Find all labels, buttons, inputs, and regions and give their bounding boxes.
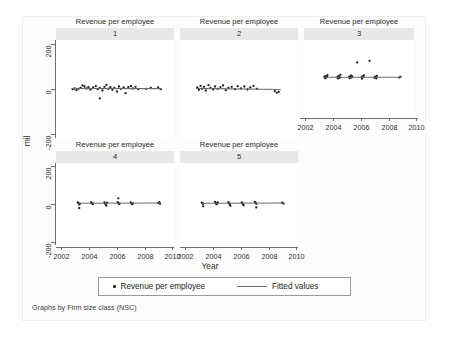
figure-caption: Graphs by Firm size class (NSC) — [32, 303, 137, 312]
legend: Revenue per employee Fitted values — [98, 277, 351, 296]
panel-3-plotbox — [304, 40, 414, 116]
x-tick-label-p5-2006: 2006 — [230, 252, 253, 261]
x-tick-label-p4-2004: 2004 — [78, 252, 101, 261]
panel-1-plotbox — [56, 40, 174, 138]
x-tick-label-p5-2004: 2004 — [202, 252, 225, 261]
x-tick-p4-2006 — [117, 247, 118, 250]
panel-2-series — [180, 40, 298, 138]
panel-5-inner — [180, 163, 298, 245]
panel-4-subtitle: 4 — [56, 152, 174, 161]
panel-3: Revenue per employee 3 — [304, 28, 414, 116]
graph-canvas: mil 200 0 -200 200 0 -200 Revenue per em… — [0, 0, 449, 338]
panel-3-series — [304, 40, 414, 116]
panel-1-subtitle: 1 — [56, 29, 174, 38]
x-tick-label-p4-2002: 2002 — [50, 252, 73, 261]
x-tick-p4-2002 — [61, 247, 62, 250]
x-tick-label-p4-2006: 2006 — [106, 252, 129, 261]
x-tick-label-p3-2008: 2008 — [378, 123, 401, 132]
legend-label-fit: Fitted values — [272, 282, 318, 291]
panel-4-inner — [56, 163, 174, 245]
x-tick-p3-2006 — [361, 118, 362, 121]
y-tick-label-row2-0: 0 — [44, 206, 53, 232]
panel-5-title: Revenue per employee — [180, 140, 298, 149]
x-tick-p4-2010 — [172, 247, 173, 250]
y-tick-label-row1-0: 0 — [44, 91, 53, 117]
legend-entry-fit[interactable]: Fitted values — [237, 278, 318, 295]
x-axis-title: Year — [180, 261, 240, 271]
x-tick-p3-2010 — [416, 118, 417, 121]
y-axis-title: mil — [22, 128, 32, 154]
panel-3-subtitle: 3 — [304, 29, 414, 38]
panel-1: Revenue per employee 1 — [56, 28, 174, 138]
x-tick-p3-2004 — [333, 118, 334, 121]
x-tick-label-p3-2002: 2002 — [294, 123, 317, 132]
x-tick-p5-2006 — [241, 247, 242, 250]
x-tick-p5-2008 — [269, 247, 270, 250]
x-tick-p3-2002 — [305, 118, 306, 121]
x-axis-line-panel4 — [56, 247, 174, 248]
panel-4: Revenue per employee 4 — [56, 151, 174, 245]
panel-2: Revenue per employee 2 — [180, 28, 298, 138]
panel-5-plotbox — [180, 163, 298, 245]
x-tick-p5-2002 — [185, 247, 186, 250]
panel-3-inner — [304, 40, 414, 116]
y-tick-label-row1-neg200: -200 — [44, 136, 53, 162]
panel-4-title: Revenue per employee — [56, 140, 174, 149]
x-tick-label-p4-2008: 2008 — [134, 252, 157, 261]
legend-label-scatter: Revenue per employee — [121, 282, 206, 291]
x-tick-label-p5-2010: 2010 — [285, 252, 308, 261]
plot-area: mil 200 0 -200 200 0 -200 Revenue per em… — [0, 0, 449, 338]
panel-4-plotbox — [56, 163, 174, 245]
x-tick-p5-2004 — [213, 247, 214, 250]
panel-1-title: Revenue per employee — [56, 17, 174, 26]
x-tick-label-p5-2002: 2002 — [174, 252, 197, 261]
panel-1-inner — [56, 40, 174, 138]
panel-5-subtitle: 5 — [180, 152, 298, 161]
panel-5: Revenue per employee 5 — [180, 151, 298, 245]
x-tick-p4-2004 — [89, 247, 90, 250]
x-tick-p4-2008 — [145, 247, 146, 250]
x-tick-p5-2010 — [296, 247, 297, 250]
x-axis-line-panel3 — [300, 118, 418, 119]
x-tick-label-p5-2008: 2008 — [258, 252, 281, 261]
panel-2-plotbox — [180, 40, 298, 138]
panel-5-series — [180, 163, 298, 245]
dot-marker-icon — [113, 285, 116, 288]
y-tick-label-row1-200: 200 — [44, 46, 53, 72]
legend-entry-scatter[interactable]: Revenue per employee — [113, 278, 205, 295]
panel-4-series — [56, 163, 174, 245]
line-marker-icon — [237, 286, 267, 287]
x-tick-label-p3-2004: 2004 — [322, 123, 345, 132]
x-tick-label-p3-2006: 2006 — [350, 123, 373, 132]
x-tick-p3-2008 — [389, 118, 390, 121]
x-axis-line-panel5 — [180, 247, 298, 248]
panel-2-subtitle: 2 — [180, 29, 298, 38]
y-tick-label-row2-200: 200 — [44, 168, 53, 194]
panel-3-title: Revenue per employee — [304, 17, 414, 26]
panel-2-title: Revenue per employee — [180, 17, 298, 26]
x-tick-label-p3-2010: 2010 — [405, 123, 428, 132]
panel-1-series — [56, 40, 174, 138]
panel-2-inner — [180, 40, 298, 138]
